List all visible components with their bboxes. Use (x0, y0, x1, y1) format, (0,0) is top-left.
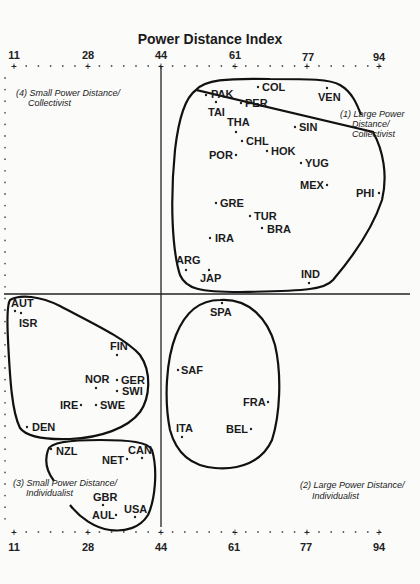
point-SWE (95, 404, 97, 406)
label-ISR: ISR (19, 317, 37, 329)
point-CAN (141, 457, 143, 459)
bottom-tick-44: 44 (155, 541, 168, 553)
point-DEN (26, 426, 28, 428)
label-AUT: AUT (11, 297, 34, 309)
label-GRE: GRE (220, 197, 244, 209)
svg-text:Collectivist: Collectivist (28, 98, 72, 108)
label-THA: THA (227, 116, 250, 128)
point-PAK (205, 94, 207, 96)
label-NOR: NOR (85, 373, 110, 385)
svg-text:Collectivist: Collectivist (352, 129, 396, 139)
point-VEN (326, 87, 328, 89)
svg-text:(1) Large Power: (1) Large Power (340, 109, 406, 119)
label-GBR: GBR (93, 491, 118, 503)
point-FIN (116, 354, 118, 356)
svg-text:Individualist: Individualist (26, 488, 74, 498)
svg-text:Distance/: Distance/ (352, 119, 391, 129)
point-ISR (20, 312, 22, 314)
label-CHL: CHL (246, 135, 269, 147)
svg-text:+: + (232, 527, 238, 538)
point-GRE (215, 202, 217, 204)
point-THA (235, 131, 237, 133)
label-FIN: FIN (110, 340, 128, 352)
svg-text:+: + (11, 61, 17, 72)
label-COL: COL (262, 81, 286, 93)
bottom-tick-61: 61 (228, 541, 240, 553)
label-TUR: TUR (254, 210, 277, 222)
cluster-2-outline (167, 300, 280, 468)
bottom-tick-77: 77 (300, 541, 312, 553)
point-MEX (326, 184, 328, 186)
point-JAP (208, 269, 210, 271)
svg-text:+: + (304, 61, 310, 72)
left-axis-dots (4, 77, 6, 520)
label-IRA: IRA (215, 232, 234, 244)
label-YUG: YUG (305, 157, 329, 169)
quadrant-4-label: (4) Small Power Distance/ Collectivist (16, 88, 122, 108)
point-COL (257, 86, 259, 88)
bottom-axis: 11 28 44 61 77 94 (8, 541, 386, 553)
svg-text:+: + (304, 527, 310, 538)
point-PER (240, 102, 242, 104)
label-TAI: TAI (208, 106, 225, 118)
top-tick-28: 28 (82, 49, 94, 61)
label-BRA: BRA (267, 223, 291, 235)
label-SAF: SAF (181, 364, 203, 376)
svg-text:+: + (232, 61, 238, 72)
point-ITA (181, 436, 183, 438)
svg-text:(4) Small Power Distance/: (4) Small Power Distance/ (16, 88, 122, 98)
point-IRE (80, 404, 82, 406)
svg-text:(2) Large Power Distance/: (2) Large Power Distance/ (300, 480, 406, 490)
quadrant-2-label: (2) Large Power Distance/ Individualist (300, 480, 406, 501)
label-IND: IND (301, 268, 320, 280)
label-DEN: DEN (32, 421, 55, 433)
label-JAP: JAP (200, 272, 221, 284)
chart-title: Power Distance Index (138, 31, 283, 47)
point-HOK (266, 150, 268, 152)
label-BEL: BEL (226, 423, 248, 435)
point-AUL (115, 514, 117, 516)
label-PHI: PHI (356, 187, 374, 199)
label-AUL: AUL (92, 509, 115, 521)
label-CAN: CAN (128, 444, 152, 456)
label-VEN: VEN (318, 91, 341, 103)
point-NOR (95, 387, 97, 389)
label-NET: NET (102, 454, 124, 466)
label-FRA: FRA (243, 396, 266, 408)
point-NET (126, 458, 128, 460)
label-USA: USA (124, 503, 147, 515)
point-CHL (241, 140, 243, 142)
point-ARG (185, 269, 187, 271)
power-distance-chart: Power Distance Index 11 28 44 61 77 94 +… (0, 0, 420, 584)
point-SWI (116, 390, 118, 392)
svg-text:+: + (85, 527, 91, 538)
point-YUG (300, 162, 302, 164)
point-USA (134, 516, 136, 518)
label-POR: POR (209, 149, 233, 161)
top-tick-61: 61 (229, 49, 241, 61)
point-FRA (267, 401, 269, 403)
label-ITA: ITA (176, 422, 193, 434)
top-tick-44: 44 (155, 49, 168, 61)
point-BRA (261, 227, 263, 229)
label-MEX: MEX (300, 179, 325, 191)
point-IND (308, 282, 310, 284)
svg-text:Individualist: Individualist (312, 491, 360, 501)
bottom-tick-94: 94 (373, 541, 386, 553)
label-PER: PER (245, 97, 268, 109)
bottom-axis-dots: ++++++ (11, 527, 382, 538)
point-BEL (250, 428, 252, 430)
svg-text:+: + (376, 527, 382, 538)
point-GBR (102, 504, 104, 506)
label-PAK: PAK (211, 88, 233, 100)
label-HOK: HOK (271, 145, 296, 157)
point-GER (116, 379, 118, 381)
svg-text:+: + (376, 61, 382, 72)
point-TUR (249, 215, 251, 217)
quadrant-1-label: (1) Large Power Distance/ Collectivist (340, 109, 406, 139)
label-NZL: NZL (56, 445, 78, 457)
top-tick-11: 11 (8, 49, 20, 61)
bottom-tick-11: 11 (8, 541, 20, 553)
top-axis: 11 28 44 61 77 94 (8, 49, 386, 63)
svg-text:+: + (11, 527, 17, 538)
